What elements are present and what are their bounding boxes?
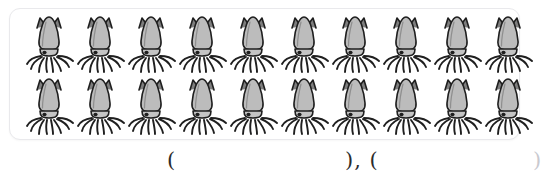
squid-item [483,13,534,75]
worksheet: ( ), ( ) [0,0,544,180]
squid-row-2 [10,75,521,137]
squid-item [381,13,432,75]
squid-item [24,75,75,137]
squid-item [432,75,483,137]
squid-row-1 [10,13,521,75]
squid-item [177,13,228,75]
answer-blank-2[interactable] [380,154,530,174]
squid-item [177,75,228,137]
squid-item [228,13,279,75]
squid-array-card [9,8,520,140]
squid-item [126,75,177,137]
squid-item [228,75,279,137]
squid-item [330,13,381,75]
squid-item [24,13,75,75]
squid-item [279,13,330,75]
answer-mid-parens: ), ( [345,150,379,171]
squid-item [330,75,381,137]
squid-item [75,13,126,75]
answer-line: ( ), ( ) [0,144,544,180]
answer-open-paren-1: ( [167,150,175,171]
squid-item [381,75,432,137]
squid-item [483,75,534,137]
squid-item [279,75,330,137]
squid-item [75,75,126,137]
squid-item [432,13,483,75]
answer-blank-1[interactable] [180,154,340,174]
squid-item [126,13,177,75]
answer-close-paren-2: ) [533,150,541,171]
